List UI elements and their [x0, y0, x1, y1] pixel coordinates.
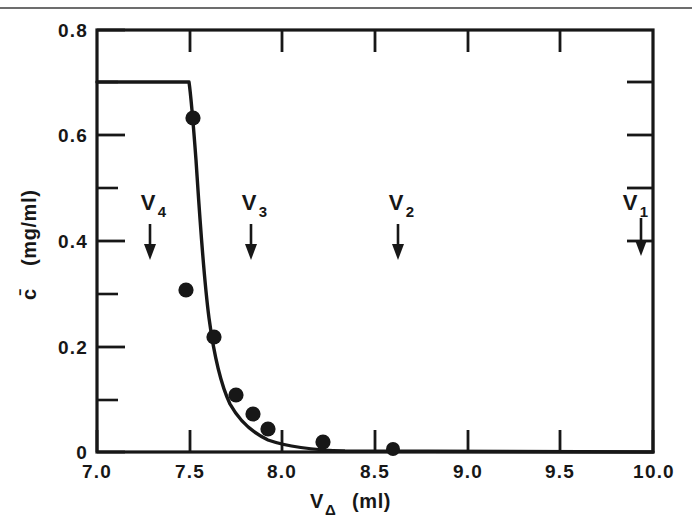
x-axis-title-subscript: Δ	[325, 501, 336, 517]
annotation-v4-subscript: 4	[158, 203, 167, 220]
annotation-v1-label: V	[623, 190, 638, 215]
x-tick-label-8-5: 8.5	[360, 461, 390, 482]
data-point-6	[260, 421, 275, 436]
annotation-v2-label: V	[389, 190, 404, 215]
annotation-v3-subscript: 3	[259, 203, 267, 220]
annotation-v2-subscript: 2	[406, 203, 414, 220]
x-tick-label-9-5: 9.5	[545, 461, 575, 482]
x-tick-label-9-0: 9.0	[453, 461, 483, 482]
annotation-v4-label: V	[141, 190, 156, 215]
y-axis-title-base: c̄	[18, 288, 40, 300]
data-point-2	[178, 282, 193, 297]
data-point-8	[386, 442, 400, 456]
x-tick-label-7-0: 7.0	[82, 461, 112, 482]
figure-background	[0, 0, 692, 517]
x-tick-label-10-0: 10.0	[633, 461, 675, 482]
x-axis-title-base: V	[310, 490, 324, 512]
data-point-7	[315, 434, 330, 449]
y-tick-label-0-6: 0.6	[58, 125, 88, 146]
y-tick-label-0-0: 0	[76, 442, 88, 463]
data-point-5	[245, 406, 260, 421]
figure-chart-concentration-vs-volume: 7.0 7.5 8.0 8.5 9.0 9.5 10.0 0.8 0.6 0.4…	[0, 0, 692, 517]
x-tick-label-8-0: 8.0	[267, 461, 297, 482]
y-tick-label-0-2: 0.2	[58, 337, 88, 358]
annotation-v3-label: V	[242, 190, 257, 215]
x-tick-label-7-5: 7.5	[175, 461, 205, 482]
data-point-3	[206, 329, 221, 344]
y-axis-title-unit: (mg/ml)	[18, 190, 40, 266]
annotation-v1-subscript: 1	[640, 203, 648, 220]
data-point-4	[228, 387, 243, 402]
x-axis-title-unit: (ml)	[352, 490, 391, 512]
data-point-1	[185, 110, 200, 125]
y-tick-label-0-4: 0.4	[58, 231, 88, 252]
y-tick-label-0-8: 0.8	[58, 20, 88, 41]
